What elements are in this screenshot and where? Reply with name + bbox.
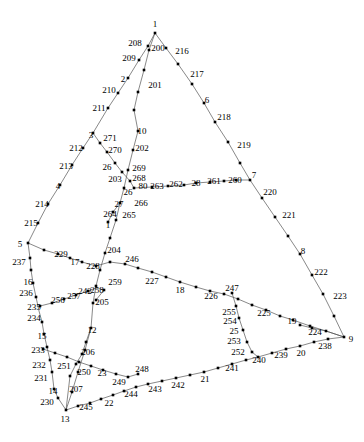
graph-node[interactable] xyxy=(127,376,130,379)
graph-node[interactable] xyxy=(195,286,198,289)
node-label: 224 xyxy=(308,328,322,337)
graph-node[interactable] xyxy=(115,373,118,376)
graph-node[interactable] xyxy=(43,249,46,252)
graph-node[interactable] xyxy=(322,293,325,296)
graph-node[interactable] xyxy=(274,216,277,219)
graph-node[interactable] xyxy=(151,271,154,274)
graph-node[interactable] xyxy=(114,162,117,165)
graph-node[interactable] xyxy=(35,296,38,299)
node-label: 19 xyxy=(288,317,297,326)
node-label: 240 xyxy=(252,356,266,365)
graph-node[interactable] xyxy=(133,187,136,190)
node-label: 204 xyxy=(107,246,121,255)
graph-node[interactable] xyxy=(246,341,249,344)
node-label: 216 xyxy=(175,47,189,56)
graph-node[interactable] xyxy=(311,274,314,277)
node-label: 8 xyxy=(301,247,306,256)
graph-node[interactable] xyxy=(237,298,240,301)
node-label: 264 xyxy=(103,210,117,219)
graph-node[interactable] xyxy=(127,169,130,172)
graph-node[interactable] xyxy=(333,315,336,318)
graph-node[interactable] xyxy=(165,276,168,279)
graph-node[interactable] xyxy=(127,77,130,80)
graph-node[interactable] xyxy=(92,302,95,305)
node-label: 250 xyxy=(77,368,91,377)
graph-node[interactable] xyxy=(46,346,49,349)
graph-node[interactable] xyxy=(223,180,226,183)
node-label: 234 xyxy=(27,314,41,323)
node-label: 256 xyxy=(51,296,65,305)
node-label: 212 xyxy=(69,144,83,153)
node-label: 252 xyxy=(231,348,245,357)
graph-node[interactable] xyxy=(132,149,135,152)
graph-node[interactable] xyxy=(66,356,69,359)
node-label: 16 xyxy=(24,278,33,287)
node-label: 203 xyxy=(108,175,122,184)
graph-node[interactable] xyxy=(299,324,302,327)
graph-node[interactable] xyxy=(239,162,242,165)
graph-node[interactable] xyxy=(115,219,118,222)
graph-node[interactable] xyxy=(75,363,78,366)
graph-node[interactable] xyxy=(51,371,54,374)
node-label: 25 xyxy=(230,327,239,336)
graph-node[interactable] xyxy=(100,398,103,401)
graph-node[interactable] xyxy=(99,142,102,145)
graph-node[interactable] xyxy=(191,83,194,86)
graph-node[interactable] xyxy=(54,352,57,355)
graph-node[interactable] xyxy=(261,197,264,200)
graph-node[interactable] xyxy=(223,293,226,296)
graph-node[interactable] xyxy=(287,235,290,238)
node-label: 226 xyxy=(204,292,218,301)
graph-node[interactable] xyxy=(325,330,328,333)
graph-node[interactable] xyxy=(81,261,84,264)
graph-node[interactable] xyxy=(112,394,115,397)
graph-node[interactable] xyxy=(109,261,112,264)
graph-node[interactable] xyxy=(245,359,248,362)
graph-node[interactable] xyxy=(117,92,120,95)
graph-node[interactable] xyxy=(133,109,136,112)
graph-node[interactable] xyxy=(143,69,146,72)
graph-node[interactable] xyxy=(242,329,245,332)
graph-node[interactable] xyxy=(313,341,316,344)
graph-node[interactable] xyxy=(129,180,132,183)
node-label: 214 xyxy=(35,200,49,209)
graph-node[interactable] xyxy=(107,107,110,110)
graph-node[interactable] xyxy=(154,32,157,35)
graph-node[interactable] xyxy=(138,59,141,62)
graph-node[interactable] xyxy=(238,317,241,320)
graph-node[interactable] xyxy=(343,336,346,339)
node-label: 7 xyxy=(252,171,257,180)
node-label: 230 xyxy=(40,398,54,407)
graph-node[interactable] xyxy=(69,375,72,378)
graph-node[interactable] xyxy=(183,184,186,187)
graph-node[interactable] xyxy=(29,257,32,260)
graph-node[interactable] xyxy=(177,63,180,66)
graph-node[interactable] xyxy=(227,141,230,144)
graph-node[interactable] xyxy=(49,359,52,362)
graph-node[interactable] xyxy=(30,269,33,272)
graph-node[interactable] xyxy=(279,315,282,318)
graph-node[interactable] xyxy=(251,304,254,307)
graph-node[interactable] xyxy=(137,91,140,94)
graph-node[interactable] xyxy=(78,361,81,364)
graph-node[interactable] xyxy=(104,252,107,255)
node-label: 28 xyxy=(192,179,201,188)
graph-node[interactable] xyxy=(148,49,151,52)
graph-node[interactable] xyxy=(147,45,150,48)
graph-node[interactable] xyxy=(161,380,164,383)
graph-node[interactable] xyxy=(189,374,192,377)
node-label: 254 xyxy=(223,317,237,326)
graph-node[interactable] xyxy=(179,281,182,284)
graph-node[interactable] xyxy=(251,351,254,354)
graph-node[interactable] xyxy=(214,121,217,124)
graph-node[interactable] xyxy=(27,242,30,245)
graph-node[interactable] xyxy=(271,352,274,355)
graph-node[interactable] xyxy=(65,409,68,412)
node-label: 10 xyxy=(138,127,147,136)
node-label: 258 xyxy=(90,286,104,295)
graph-node[interactable] xyxy=(217,367,220,370)
graph-node[interactable] xyxy=(109,237,112,240)
graph-node[interactable] xyxy=(57,397,60,400)
graph-node[interactable] xyxy=(137,267,140,270)
graph-node[interactable] xyxy=(85,341,88,344)
